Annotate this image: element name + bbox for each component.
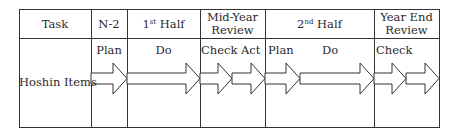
arrow-check-mid-year-icon xyxy=(200,63,232,94)
phase-check-year-end: Check xyxy=(376,44,412,57)
first-half-number: 1 xyxy=(142,17,149,31)
header-n2: N-2 xyxy=(91,18,127,31)
arrow-act-mid-year-icon xyxy=(232,63,265,94)
year-end-line2: Review xyxy=(374,24,439,37)
header-task: Task xyxy=(19,18,91,31)
first-half-text: Half xyxy=(156,17,184,31)
header-first-half: 1st Half xyxy=(127,18,200,31)
row-label-hoshin-items: Hoshin Items xyxy=(19,76,91,89)
arrow-check-year-end-icon xyxy=(374,63,406,94)
header-second-half: 2nd Half xyxy=(265,18,374,31)
header-year-end-review: Year EndReview xyxy=(374,11,439,37)
phase-do-first-half: Do xyxy=(127,44,200,57)
second-half-text: Half xyxy=(313,17,341,31)
header-mid-year-review: Mid-YearReview xyxy=(200,11,265,37)
arrow-plan-second-half-icon xyxy=(265,63,300,94)
phase-act-mid-year: Act xyxy=(241,44,260,57)
phase-check-mid-year: Check xyxy=(201,44,237,57)
arrow-check-year-end-2-icon xyxy=(406,63,439,94)
arrow-do-second-half-icon xyxy=(300,63,374,94)
mid-year-line2: Review xyxy=(200,24,265,37)
arrow-do-first-half-icon xyxy=(127,63,200,94)
phase-plan-second-half: Plan xyxy=(268,44,294,57)
phase-do-second-half: Do xyxy=(322,44,338,57)
phase-plan-n2: Plan xyxy=(91,44,127,57)
